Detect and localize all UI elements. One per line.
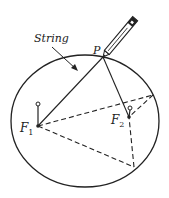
- focus-f1-label: F1: [19, 121, 33, 137]
- pencil-icon: [101, 17, 138, 59]
- string-label: String: [34, 32, 69, 45]
- pin-f2-icon: [127, 106, 132, 119]
- ellipse-curve: [11, 55, 159, 187]
- string-arrow-icon: [52, 47, 78, 71]
- string-segment-f1-p: [38, 57, 103, 126]
- point-p-label: P: [92, 44, 101, 57]
- dashed-string-positions: [38, 95, 153, 167]
- focus-f2-label: F2: [110, 113, 124, 129]
- ellipse-diagram: String P F1 F2: [0, 0, 169, 198]
